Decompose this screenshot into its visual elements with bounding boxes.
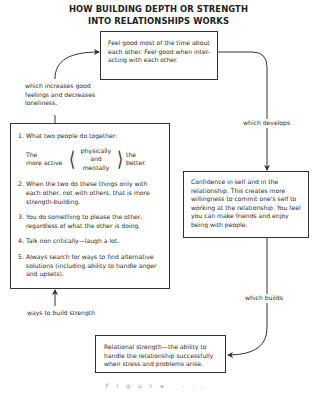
- confidence-box: Confidence in self and in the relationsh…: [183, 171, 309, 238]
- arrow-feel-good-to-confidence: [218, 52, 267, 170]
- feel-good-box: Feel good most of the time about each ot…: [100, 31, 218, 80]
- ways-item-3: 3. You do something to please the other,…: [18, 213, 163, 230]
- ways-box: 1. What two people do together: The more…: [10, 123, 170, 289]
- confidence-text: Confidence in self and in the relationsh…: [191, 178, 302, 230]
- ways-label: ways to build strength: [27, 309, 95, 318]
- ways-item-1: 1. What two people do together:: [18, 132, 163, 141]
- relational-strength-text: Relational strength—the ability to handl…: [104, 343, 219, 369]
- figure-caption: Figure ...: [0, 382, 317, 389]
- ways-item-2: 2. When the two do these things only wit…: [18, 180, 163, 206]
- left-angle-bracket-icon: ⟨: [69, 149, 75, 169]
- relational-strength-box: Relational strength—the ability to handl…: [95, 335, 226, 373]
- feel-good-text: Feel good most of the time about each ot…: [108, 39, 211, 65]
- increases-label: which increases good feelings and decrea…: [25, 82, 100, 108]
- arrow-increases-to-feel-good: [55, 52, 99, 79]
- active-row: The more active ⟨ physically and mentall…: [26, 147, 163, 173]
- builds-label: which builds: [245, 294, 283, 303]
- right-angle-bracket-icon: ⟩: [117, 149, 123, 169]
- ways-item-4: 4. Talk non critically—laugh a lot.: [18, 237, 163, 246]
- ways-item-5: 5. Always search for ways to find altern…: [18, 253, 163, 279]
- develops-label: which develops: [243, 119, 290, 128]
